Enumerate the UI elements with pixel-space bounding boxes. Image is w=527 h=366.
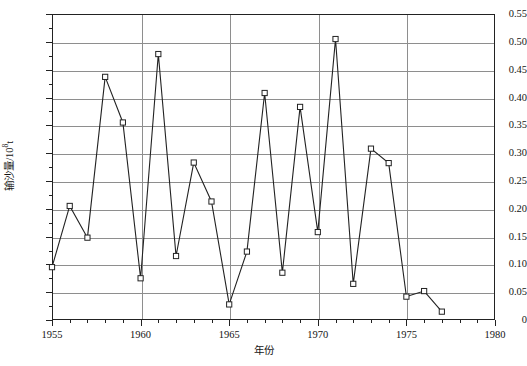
y-axis-title: 输沙量/108t — [0, 106, 16, 226]
x-axis-minor-tick-mark — [70, 320, 71, 323]
x-axis-tick-label: 1980 — [465, 329, 525, 340]
x-axis-tick-mark — [141, 320, 142, 326]
x-axis-minor-tick-mark — [424, 320, 425, 323]
x-axis-minor-tick-mark — [282, 320, 283, 323]
data-point-marker — [333, 36, 338, 41]
x-axis-minor-tick-mark — [265, 320, 266, 323]
data-point-marker — [103, 74, 108, 79]
data-point-marker — [244, 249, 249, 254]
data-point-marker — [156, 51, 161, 56]
x-axis-minor-tick-mark — [353, 320, 354, 323]
x-axis-tick-mark — [52, 320, 53, 326]
chart-figure: 00.050.100.150.200.250.300.350.400.450.5… — [0, 0, 527, 366]
x-axis-tick-mark — [318, 320, 319, 326]
x-axis-minor-tick-mark — [442, 320, 443, 323]
x-axis-minor-tick-mark — [176, 320, 177, 323]
data-point-marker — [422, 288, 427, 293]
x-axis-minor-tick-mark — [158, 320, 159, 323]
data-point-marker — [315, 229, 320, 234]
x-axis-minor-tick-mark — [123, 320, 124, 323]
x-axis-minor-tick-mark — [336, 320, 337, 323]
data-point-marker — [227, 302, 232, 307]
x-axis-minor-tick-mark — [87, 320, 88, 323]
data-series-layer — [52, 14, 495, 320]
data-point-marker — [209, 199, 214, 204]
x-axis-minor-tick-mark — [371, 320, 372, 323]
x-axis-title: 年份 — [0, 345, 527, 357]
x-axis-tick-label: 1965 — [199, 329, 259, 340]
data-point-marker — [138, 276, 143, 281]
x-axis-tick-label: 1970 — [288, 329, 348, 340]
x-axis-minor-tick-mark — [389, 320, 390, 323]
x-axis-minor-tick-mark — [212, 320, 213, 323]
data-point-marker — [439, 309, 444, 314]
x-axis-tick-label: 1960 — [111, 329, 171, 340]
x-axis-minor-tick-mark — [247, 320, 248, 323]
y-axis-title-wrapper: 输沙量/108t — [0, 0, 16, 366]
data-point-marker — [404, 294, 409, 299]
series-markers-sediment — [49, 36, 444, 314]
data-point-marker — [191, 160, 196, 165]
data-point-marker — [297, 104, 302, 109]
data-point-marker — [368, 146, 373, 151]
x-axis-tick-mark — [495, 320, 496, 326]
x-axis-minor-tick-mark — [300, 320, 301, 323]
data-point-marker — [49, 265, 54, 270]
x-axis-minor-tick-mark — [105, 320, 106, 323]
data-point-marker — [262, 90, 267, 95]
data-point-marker — [386, 161, 391, 166]
data-point-marker — [280, 270, 285, 275]
series-line-sediment — [52, 39, 442, 312]
data-point-marker — [85, 235, 90, 240]
data-point-marker — [120, 120, 125, 125]
data-point-marker — [67, 203, 72, 208]
x-axis-tick-mark — [229, 320, 230, 326]
x-axis-minor-tick-mark — [194, 320, 195, 323]
data-point-marker — [351, 281, 356, 286]
x-axis-tick-mark — [406, 320, 407, 326]
x-axis-minor-tick-mark — [477, 320, 478, 323]
x-axis-minor-tick-mark — [460, 320, 461, 323]
x-axis-tick-label: 1955 — [22, 329, 82, 340]
data-point-marker — [173, 253, 178, 258]
x-axis-tick-label: 1975 — [376, 329, 436, 340]
